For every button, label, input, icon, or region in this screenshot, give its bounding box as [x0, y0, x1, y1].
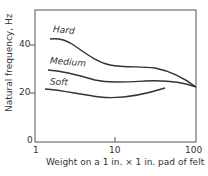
x-tick-label-10: 10 [109, 146, 120, 155]
y-axis-label: Natural frequency, Hz [4, 14, 14, 112]
plot-area [0, 0, 208, 176]
soft-label: Soft [50, 77, 68, 88]
x-tick-label-1: 1 [33, 146, 39, 155]
hard-label: Hard [53, 24, 75, 36]
x-tick-label-100: 100 [185, 146, 202, 155]
x-axis-label: Weight on a 1 in. × 1 in. pad of felt [46, 158, 204, 167]
soft-curve [45, 88, 165, 98]
y-tick-label-40: 40 [19, 40, 30, 49]
y-tick-label-0: 0 [27, 136, 33, 145]
medium-curve [48, 70, 196, 87]
y-tick-label-20: 20 [19, 88, 30, 97]
felt-frequency-chart: Natural frequency, Hz 40 20 0 1 10 100 W… [0, 0, 208, 176]
